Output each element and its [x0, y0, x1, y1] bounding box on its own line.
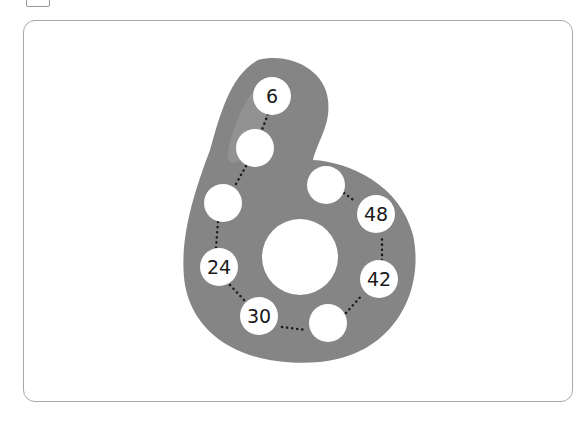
- circle-blank-2[interactable]: [204, 184, 242, 222]
- circle-label: 42: [367, 268, 391, 290]
- circle-blank-3[interactable]: [309, 304, 347, 342]
- circle-blank-4[interactable]: [307, 166, 345, 204]
- circle-30: 30: [240, 297, 278, 335]
- center-hole: [262, 219, 338, 295]
- six-diagram: 6 24 30 42 48: [0, 0, 587, 425]
- circle-label: 24: [207, 256, 231, 278]
- circle-6: 6: [253, 77, 291, 115]
- circle-blank-1[interactable]: [236, 129, 274, 167]
- circle-label: 30: [247, 305, 271, 327]
- circle-label: 6: [266, 85, 278, 107]
- circle-42: 42: [360, 260, 398, 298]
- circle-label: 48: [364, 203, 388, 225]
- circle-24: 24: [200, 248, 238, 286]
- circle-48: 48: [357, 195, 395, 233]
